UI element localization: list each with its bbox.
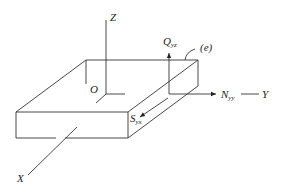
s-yx-label: Syx — [130, 113, 142, 126]
origin-label: O — [90, 84, 98, 95]
n-sub: yy — [228, 94, 234, 102]
x-axis-stub — [96, 94, 106, 103]
q-sub: yz — [171, 41, 177, 49]
x-axis — [28, 127, 77, 175]
s-sub: yx — [136, 118, 142, 126]
plate-diagram — [0, 0, 285, 191]
x-axis-label: X — [17, 173, 24, 184]
n-yy-label: Nyy — [221, 89, 235, 102]
z-axis-label: Z — [110, 12, 116, 23]
edge-leader-e — [185, 49, 195, 60]
q-main: Q — [163, 35, 171, 47]
edge-label: (e) — [200, 42, 212, 53]
y-axis-label: Y — [262, 89, 268, 100]
q-yz-label: Qyz — [163, 36, 177, 49]
shear-force-arrow-Syx — [140, 98, 168, 117]
plate-box — [16, 60, 198, 138]
